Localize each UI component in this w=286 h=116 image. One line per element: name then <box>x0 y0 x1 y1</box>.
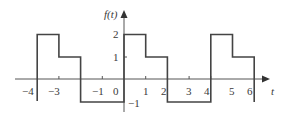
y-tick-label: 2 <box>113 29 119 40</box>
x-tick-label: −1 <box>92 86 104 97</box>
x-tick-label: 5 <box>229 86 235 97</box>
y-tick-label: −1 <box>128 98 140 109</box>
x-tick-label: 4 <box>204 86 210 97</box>
x-axis-arrow-icon <box>262 76 270 83</box>
x-tick-label: 0 <box>113 86 119 97</box>
x-tick-label: 3 <box>186 86 192 97</box>
waveform-plot <box>0 0 286 116</box>
x-tick-label: 6 <box>247 86 253 97</box>
y-axis-label: f(t) <box>104 9 117 20</box>
x-tick-label: 1 <box>143 86 149 97</box>
x-axis-label: t <box>271 86 274 97</box>
y-tick-label: 1 <box>113 52 119 63</box>
x-tick-label: −4 <box>22 86 34 97</box>
y-axis-arrow-icon <box>121 10 128 18</box>
x-tick-label: 2 <box>161 86 167 97</box>
x-tick-label: −3 <box>48 86 60 97</box>
